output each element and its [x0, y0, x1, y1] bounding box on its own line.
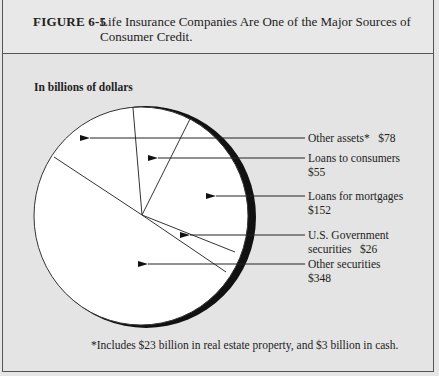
- label-value: $78: [378, 132, 395, 144]
- label-value: $26: [360, 243, 377, 255]
- label-name: Other securities: [308, 257, 381, 271]
- label-name: Loans to consumers: [308, 151, 400, 165]
- label-name: U.S. Government: [308, 228, 389, 242]
- label-value: $152: [308, 203, 403, 217]
- pie-chart: [0, 0, 439, 376]
- label-other-assets: Other assets* $78: [308, 131, 396, 145]
- label-loans-for-mortgages: Loans for mortgages $152: [308, 189, 403, 217]
- label-name-line2: securities: [308, 243, 351, 255]
- label-loans-to-consumers: Loans to consumers $55: [308, 151, 400, 179]
- footnote: *Includes $23 billion in real estate pro…: [91, 339, 398, 351]
- label-other-securities: Other securities $348: [308, 257, 381, 285]
- label-name: Other assets*: [308, 132, 370, 144]
- pie-body: [34, 107, 248, 325]
- label-value: $348: [308, 271, 381, 285]
- label-us-government-securities: U.S. Government securities $26: [308, 228, 389, 256]
- label-value: $55: [308, 165, 400, 179]
- label-name: Loans for mortgages: [308, 189, 403, 203]
